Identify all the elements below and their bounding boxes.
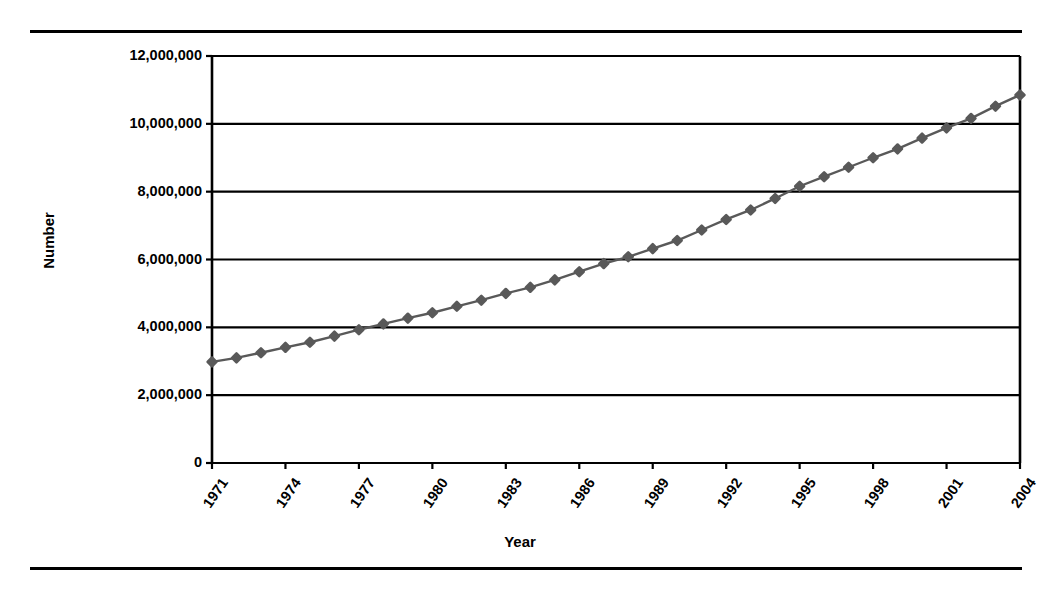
- y-tick-label: 12,000,000: [60, 47, 202, 63]
- line-chart: [0, 0, 1052, 590]
- tick-marks: [206, 56, 1020, 469]
- y-tick-label: 10,000,000: [60, 115, 202, 131]
- y-tick-label: 2,000,000: [60, 386, 202, 402]
- y-tick-label: 4,000,000: [60, 318, 202, 334]
- y-tick-label: 8,000,000: [60, 183, 202, 199]
- y-tick-label: 0: [60, 454, 202, 470]
- y-tick-label: 6,000,000: [60, 251, 202, 267]
- x-axis-title: Year: [460, 533, 580, 550]
- data-series: [208, 91, 1025, 367]
- plot-area: 02,000,0004,000,0006,000,0008,000,00010,…: [0, 0, 1052, 590]
- figure: 02,000,0004,000,0006,000,0008,000,00010,…: [0, 0, 1052, 590]
- y-axis-title: Number: [40, 191, 57, 291]
